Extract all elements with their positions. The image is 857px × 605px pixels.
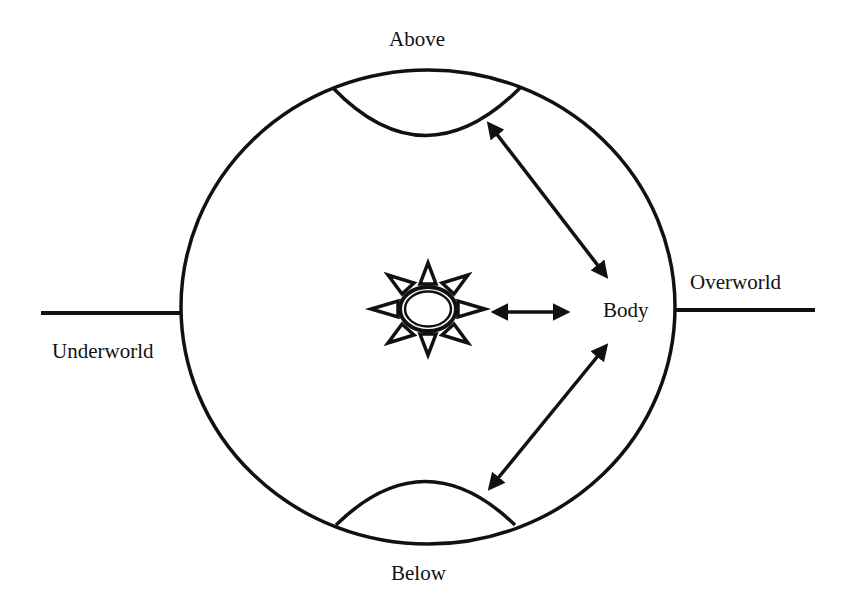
sun-star-icon [371,263,485,355]
label-overworld: Overworld [690,272,781,293]
label-below: Below [391,563,446,584]
arrow-body-above [489,124,606,276]
below-region [336,482,515,526]
label-above: Above [389,29,445,50]
label-body: Body [603,300,649,321]
cosmos-diagram [0,0,857,605]
label-underworld: Underworld [52,341,153,362]
arrow-body-below [490,346,606,488]
